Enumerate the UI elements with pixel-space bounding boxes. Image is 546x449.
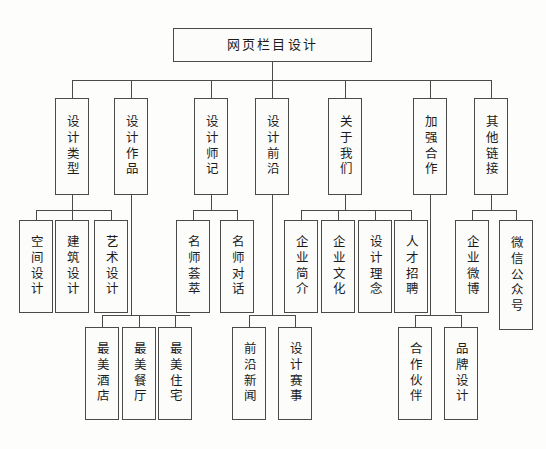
- node-master-collection[interactable]: 名师荟萃: [176, 220, 210, 313]
- connector-drop-l2-3: [211, 80, 212, 98]
- node-about-us[interactable]: 关于我们: [328, 98, 362, 195]
- connector-bus-sjsj: [193, 210, 237, 211]
- node-most-beautiful-hotel[interactable]: 最美酒店: [85, 327, 119, 420]
- node-label: 艺术设计: [104, 235, 117, 298]
- connector-level2-bus: [72, 80, 491, 81]
- node-label: 合作伙伴: [408, 342, 421, 405]
- connector-drop-l2-1: [72, 80, 73, 98]
- node-frontier-news[interactable]: 前沿新闻: [232, 327, 266, 420]
- node-cooperative-partner[interactable]: 合作伙伴: [398, 327, 432, 420]
- connector-stem-sjsj: [211, 195, 212, 210]
- node-root-label: 网页栏目设计: [227, 38, 318, 52]
- connector-drop-mshc: [193, 210, 194, 220]
- node-company-culture[interactable]: 企业文化: [321, 220, 355, 313]
- node-label: 品牌设计: [454, 342, 467, 405]
- connector-bus-sjlx: [36, 210, 111, 211]
- connector-drop-wxgzh: [516, 210, 517, 220]
- node-company-profile[interactable]: 企业简介: [284, 220, 318, 313]
- node-label: 设计作品: [124, 115, 137, 178]
- node-label: 设计师记: [204, 115, 217, 178]
- connector-drop-l2-7: [491, 80, 492, 98]
- node-label: 最美餐厅: [132, 342, 145, 405]
- node-label: 设计理念: [368, 235, 381, 298]
- node-design-type[interactable]: 设计类型: [55, 98, 89, 195]
- connector-bus-qtlj: [472, 210, 516, 211]
- connector-drop-qywb: [472, 210, 473, 220]
- node-label: 空间设计: [29, 235, 42, 298]
- node-label: 最美酒店: [95, 342, 108, 405]
- connector-stem-sjlx: [72, 195, 73, 210]
- connector-drop-qyjj: [301, 210, 302, 220]
- node-design-philosophy[interactable]: 设计理念: [358, 220, 392, 313]
- node-company-weibo[interactable]: 企业微博: [455, 220, 489, 313]
- node-brand-design[interactable]: 品牌设计: [444, 327, 478, 420]
- connector-drop-jzsj: [72, 210, 73, 220]
- connector-stem-gywm: [345, 195, 346, 210]
- connector-drop-zmct: [139, 315, 140, 327]
- connector-drop-l2-6: [430, 80, 431, 98]
- node-label: 设计赛事: [288, 342, 301, 405]
- node-label: 关于我们: [338, 115, 351, 178]
- node-most-beautiful-restaurant[interactable]: 最美餐厅: [122, 327, 156, 420]
- node-label: 建筑设计: [65, 235, 78, 298]
- node-label: 名师对话: [230, 235, 243, 298]
- node-label: 前沿新闻: [242, 342, 255, 405]
- connector-drop-zmzz: [175, 315, 176, 327]
- connector-stem-jqhz: [430, 195, 431, 315]
- connector-drop-rczp: [411, 210, 412, 220]
- connector-drop-l2-4: [272, 80, 273, 98]
- node-label: 名师荟萃: [186, 235, 199, 298]
- node-other-links[interactable]: 其他链接: [474, 98, 508, 195]
- connector-drop-kjsj: [36, 210, 37, 220]
- node-wechat-official-account[interactable]: 微信公众号: [499, 220, 533, 330]
- connector-bus-sjzp: [102, 315, 190, 316]
- node-talent-recruitment[interactable]: 人才招聘: [394, 220, 428, 313]
- connector-drop-l2-2: [131, 80, 132, 98]
- connector-stem-sjzp: [131, 195, 132, 315]
- node-label: 企业微博: [465, 235, 478, 298]
- connector-drop-yssj: [111, 210, 112, 220]
- node-most-beautiful-residence[interactable]: 最美住宅: [158, 327, 192, 420]
- node-design-competition[interactable]: 设计赛事: [278, 327, 312, 420]
- node-label: 企业简介: [294, 235, 307, 298]
- connector-bus-jqhz: [415, 315, 461, 316]
- node-label: 企业文化: [331, 235, 344, 298]
- connector-bus-gywm: [301, 210, 411, 211]
- connector-drop-msdh: [237, 210, 238, 220]
- node-label: 设计前沿: [265, 115, 278, 178]
- diagram-canvas: 网页栏目设计 设计类型 设计作品 设计师记 设计前沿 关于我们 加强合作 其他链…: [0, 0, 546, 449]
- node-architecture-design[interactable]: 建筑设计: [55, 220, 89, 313]
- connector-bus-sjqy: [249, 315, 295, 316]
- node-space-design[interactable]: 空间设计: [19, 220, 53, 313]
- node-label: 加强合作: [423, 115, 436, 178]
- node-label: 其他链接: [484, 115, 497, 178]
- node-label: 人才招聘: [404, 235, 417, 298]
- node-design-frontier[interactable]: 设计前沿: [255, 98, 289, 195]
- connector-drop-qyxw: [249, 315, 250, 327]
- connector-stem-qtlj: [491, 195, 492, 210]
- node-label: 设计类型: [65, 115, 78, 178]
- node-design-works[interactable]: 设计作品: [114, 98, 148, 195]
- node-label: 最美住宅: [168, 342, 181, 405]
- node-strengthen-cooperation[interactable]: 加强合作: [413, 98, 447, 195]
- connector-drop-sjln: [375, 210, 376, 220]
- node-designer-notes[interactable]: 设计师记: [194, 98, 228, 195]
- connector-stem-sjqy: [272, 195, 273, 315]
- connector-drop-l2-5: [345, 80, 346, 98]
- connector-drop-zmjd: [102, 315, 103, 327]
- node-label: 微信公众号: [509, 236, 522, 315]
- connector-root-stem: [272, 62, 273, 80]
- node-art-design[interactable]: 艺术设计: [94, 220, 128, 313]
- node-root[interactable]: 网页栏目设计: [173, 28, 372, 62]
- node-master-dialogue[interactable]: 名师对话: [220, 220, 254, 313]
- connector-drop-qywh: [338, 210, 339, 220]
- connector-drop-ppsj: [461, 315, 462, 327]
- connector-drop-hzhb: [415, 315, 416, 327]
- connector-drop-sjss: [295, 315, 296, 327]
